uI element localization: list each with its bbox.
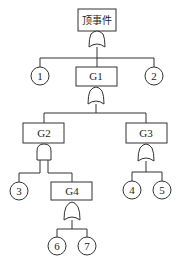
or-gate-icon [88,87,104,104]
or-gate-icon [89,31,105,47]
gate-event-g4[interactable]: G4 [51,182,92,200]
basic-event-label: 5 [159,184,165,196]
basic-event-1[interactable]: 1 [31,67,49,85]
basic-event-6[interactable]: 6 [48,237,66,255]
g3-label: G3 [139,127,153,139]
gate-event-g3[interactable]: G3 [126,123,167,143]
basic-event-label: 4 [129,184,135,196]
basic-event-label: 1 [37,70,43,82]
fault-tree-diagram: 顶事件 1 2 G1 G2 G3 3 G4 4 [0,0,182,265]
gate-event-g1[interactable]: G1 [76,67,117,86]
basic-event-4[interactable]: 4 [123,181,141,199]
or-gate-icon [138,144,154,161]
g2-label: G2 [37,127,50,139]
g4-label: G4 [65,185,79,197]
or-gate-icon [64,202,80,220]
basic-event-3[interactable]: 3 [10,182,28,200]
gate-event-g2[interactable]: G2 [23,123,64,143]
top-event[interactable]: 顶事件 [78,9,116,31]
g1-label: G1 [89,70,102,82]
basic-event-7[interactable]: 7 [78,237,96,255]
basic-event-2[interactable]: 2 [145,67,163,85]
basic-event-label: 3 [16,185,22,197]
top-event-label: 顶事件 [82,14,112,26]
basic-event-5[interactable]: 5 [153,181,171,199]
basic-event-label: 2 [151,70,157,82]
and-gate-icon [37,144,51,160]
basic-event-label: 7 [84,240,90,252]
basic-event-label: 6 [54,240,60,252]
